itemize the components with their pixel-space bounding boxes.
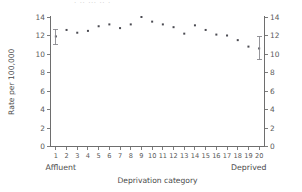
x-tick-label: 13 [180, 152, 188, 160]
x-tick-label: 10 [148, 152, 156, 160]
y-axis-title: Rate per 100,000 [7, 48, 16, 114]
y-tick-label-right: 8 [270, 68, 275, 77]
x-tick-label: 20 [255, 152, 263, 160]
y-tick-label-left: 10 [36, 50, 46, 59]
y-tick-label-right: 6 [270, 87, 275, 96]
x-axis: 1234567891011121314151617181920 [51, 147, 265, 161]
x-tick-label: 12 [169, 152, 177, 160]
x-tick-label: 9 [139, 152, 143, 160]
y-tick-label-right: 0 [270, 142, 275, 151]
data-point-marker [194, 24, 196, 26]
error-bars [53, 29, 262, 60]
data-point-marker [66, 29, 68, 31]
x-axis-end-label-affluent: Affluent [46, 163, 77, 172]
data-point-marker [151, 21, 153, 23]
data-point-marker [140, 16, 142, 18]
x-tick-label: 17 [223, 152, 231, 160]
y-tick-label-left: 14 [36, 13, 46, 22]
data-point-marker [215, 34, 217, 36]
data-point-marker [205, 29, 207, 31]
axis-titles: Rate per 100,000Deprivation categoryAffl… [7, 48, 267, 184]
x-tick-label: 5 [97, 152, 101, 160]
data-point-marker [173, 26, 175, 28]
y-tick-label-left: 0 [40, 142, 45, 151]
x-tick-label: 14 [191, 152, 199, 160]
data-point-marker [183, 33, 185, 35]
data-point-marker [162, 23, 164, 25]
data-point-marker [237, 39, 239, 41]
data-series-markers [55, 16, 260, 49]
x-tick-label: 3 [75, 152, 79, 160]
y-tick-label-left: 6 [40, 87, 45, 96]
y-axis-left: 02468101214 [36, 13, 51, 152]
data-point-marker [108, 23, 110, 25]
x-axis-end-label-deprived: Deprived [231, 163, 267, 172]
data-point-marker [87, 30, 89, 32]
x-tick-label: 7 [118, 152, 122, 160]
y-tick-label-left: 12 [36, 31, 45, 40]
y-tick-label-right: 12 [270, 31, 279, 40]
data-point-marker [98, 25, 100, 27]
x-tick-label: 4 [86, 152, 90, 160]
x-tick-label: 18 [234, 152, 242, 160]
y-tick-label-right: 2 [270, 124, 275, 133]
data-point-marker [76, 32, 78, 34]
data-point-marker [130, 23, 132, 25]
y-tick-label-right: 14 [270, 13, 280, 22]
y-tick-label-left: 2 [40, 124, 45, 133]
x-tick-label: 8 [129, 152, 133, 160]
x-tick-label: 6 [107, 152, 111, 160]
y-tick-label-left: 8 [40, 68, 45, 77]
data-point-marker [226, 35, 228, 37]
data-point-marker [247, 46, 249, 48]
x-tick-label: 1 [54, 152, 58, 160]
y-tick-label-right: 10 [270, 50, 280, 59]
y-tick-label-left: 4 [40, 105, 45, 114]
y-tick-label-right: 4 [270, 105, 275, 114]
chart-figure: · ·· ··· ·· · 02468101214 02468101214 12… [0, 0, 302, 192]
x-axis-title: Deprivation category [117, 176, 198, 185]
y-axis-right: 02468101214 [265, 13, 280, 152]
x-tick-label: 19 [244, 152, 252, 160]
data-point-marker [119, 27, 121, 29]
deprivation-rate-scatter-plot: 02468101214 02468101214 1234567891011121… [0, 0, 302, 192]
x-tick-label: 16 [212, 152, 220, 160]
x-tick-label: 11 [159, 152, 167, 160]
x-tick-label: 15 [201, 152, 209, 160]
x-tick-label: 2 [64, 152, 68, 160]
